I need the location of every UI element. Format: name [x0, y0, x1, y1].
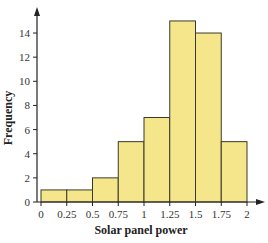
x-tick-label: 1.25	[160, 208, 180, 220]
histogram-bar	[170, 21, 196, 202]
x-tick-label: 0.25	[57, 208, 77, 220]
y-axis-title: Frequency	[1, 91, 15, 145]
x-tick-label: 0.75	[109, 208, 129, 220]
y-tick-label: 6	[25, 124, 31, 136]
x-tick-label: 2	[244, 208, 250, 220]
histogram-bar	[41, 190, 67, 202]
x-axis-arrow-icon	[256, 199, 265, 205]
histogram-chart: 02468101214 00.250.50.7511.251.51.752 Fr…	[0, 0, 268, 243]
x-axis-title: Solar panel power	[94, 223, 188, 237]
histogram-bar	[221, 142, 247, 202]
y-tick-label: 14	[19, 27, 31, 39]
x-tick-label: 1.5	[189, 208, 203, 220]
histogram-bar	[118, 142, 144, 202]
y-tick-label: 10	[19, 75, 31, 87]
histogram-bar	[67, 190, 93, 202]
y-tick-label: 0	[25, 196, 31, 208]
y-tick-label: 4	[25, 148, 31, 160]
x-tick-label: 0.5	[86, 208, 100, 220]
y-tick-label: 12	[19, 51, 30, 63]
histogram-bars	[41, 21, 247, 202]
y-axis-arrow-icon	[34, 7, 40, 16]
histogram-bar	[93, 178, 119, 202]
y-ticks: 02468101214	[19, 27, 37, 208]
histogram-bar	[144, 118, 170, 202]
x-ticks: 00.250.50.7511.251.51.752	[38, 202, 250, 220]
y-tick-label: 2	[25, 172, 31, 184]
histogram-bar	[196, 33, 222, 202]
x-tick-label: 1.75	[212, 208, 232, 220]
x-tick-label: 0	[38, 208, 44, 220]
y-tick-label: 8	[25, 99, 31, 111]
x-tick-label: 1	[141, 208, 147, 220]
